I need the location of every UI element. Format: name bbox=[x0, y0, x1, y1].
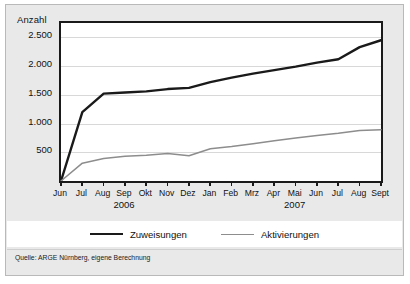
legend-item-zuweisungen[interactable]: Zuweisungen bbox=[90, 229, 187, 240]
x-axis-tick-mark bbox=[252, 181, 254, 186]
x-axis-tick-mark bbox=[273, 181, 275, 186]
legend-label: Aktivierungen bbox=[261, 229, 319, 240]
source-divider bbox=[7, 249, 402, 250]
chart-legend: ZuweisungenAktivierungen bbox=[7, 221, 402, 247]
x-axis-tick-label: Aug bbox=[95, 188, 110, 198]
legend-line-swatch bbox=[221, 234, 254, 235]
x-axis-tick-label: Jun bbox=[53, 188, 67, 198]
x-axis-year-label: 2007 bbox=[284, 199, 305, 210]
x-axis-tick-label: Nov bbox=[159, 188, 174, 198]
x-axis-tick-mark bbox=[124, 181, 126, 186]
y-axis-tick-label: 2.000 bbox=[10, 58, 52, 69]
x-axis-tick-label: Jan bbox=[202, 188, 216, 198]
x-axis-tick-mark bbox=[103, 181, 105, 186]
x-axis-ticks: JunJulAugSepOktNovDezJanFebMrzAprMaiJunJ… bbox=[59, 181, 384, 205]
x-axis-tick-mark bbox=[81, 181, 83, 186]
legend-line-swatch bbox=[90, 233, 123, 235]
x-axis-tick-label: Dez bbox=[180, 188, 195, 198]
y-axis-tick-label: 1.500 bbox=[10, 87, 52, 98]
series-line-zuweisungen bbox=[61, 40, 381, 181]
series-lines bbox=[61, 23, 381, 181]
x-axis-tick-label: Jul bbox=[76, 188, 87, 198]
x-axis-tick-mark bbox=[380, 181, 382, 186]
x-axis-tick-mark bbox=[295, 181, 297, 186]
x-axis-tick-mark bbox=[60, 181, 62, 186]
y-axis-tick-label: 1.000 bbox=[10, 116, 52, 127]
series-line-aktivierungen bbox=[61, 130, 381, 181]
x-axis-tick-mark bbox=[316, 181, 318, 186]
x-axis-tick-label: Sept bbox=[371, 188, 389, 198]
x-axis-tick-mark bbox=[167, 181, 169, 186]
x-axis-tick-label: Apr bbox=[267, 188, 280, 198]
y-axis-title: Anzahl bbox=[17, 14, 47, 25]
source-note: Quelle: ARGE Nürnberg, eigene Berechnung bbox=[15, 254, 150, 261]
x-axis-tick-label: Mrz bbox=[245, 188, 259, 198]
chart-figure: Anzahl 5001.0001.5002.0002.500 JunJulAug… bbox=[5, 4, 404, 276]
x-axis-tick-mark bbox=[145, 181, 147, 186]
x-axis-tick-label: Jun bbox=[309, 188, 323, 198]
legend-item-aktivierungen[interactable]: Aktivierungen bbox=[221, 229, 319, 240]
x-axis-tick-mark bbox=[231, 181, 233, 186]
x-axis-tick-label: Feb bbox=[223, 188, 238, 198]
x-axis-tick-mark bbox=[359, 181, 361, 186]
x-axis-year-label: 2006 bbox=[113, 199, 134, 210]
x-axis-tick-mark bbox=[188, 181, 190, 186]
y-axis-tick-label: 2.500 bbox=[10, 29, 52, 40]
y-axis-tick-label: 500 bbox=[10, 144, 52, 155]
x-axis-tick-label: Mai bbox=[288, 188, 302, 198]
x-axis-tick-label: Jul bbox=[332, 188, 343, 198]
plot-area bbox=[59, 21, 383, 183]
x-axis-tick-label: Okt bbox=[139, 188, 152, 198]
x-axis-tick-label: Sep bbox=[116, 188, 131, 198]
x-axis-tick-mark bbox=[209, 181, 211, 186]
x-axis-tick-label: Aug bbox=[351, 188, 366, 198]
legend-label: Zuweisungen bbox=[130, 229, 187, 240]
x-axis-tick-mark bbox=[337, 181, 339, 186]
